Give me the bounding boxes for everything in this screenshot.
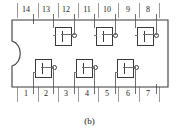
pin-separator-tick xyxy=(17,87,18,102)
gate-body xyxy=(35,59,52,78)
gate-label-one xyxy=(103,31,104,42)
gate-body xyxy=(137,27,154,46)
pin-label-6: 6 xyxy=(121,90,135,98)
pin-label-8: 8 xyxy=(141,6,155,14)
pin-separator-tick xyxy=(139,87,140,102)
gate-bottom-2-output-wire xyxy=(94,67,95,87)
pin-label-11: 11 xyxy=(80,6,94,14)
gate-body xyxy=(76,59,93,78)
pin-label-4: 4 xyxy=(80,90,94,98)
gate-body xyxy=(96,27,113,46)
gate-body xyxy=(117,59,134,78)
gate-bottom-2-input-stub xyxy=(74,72,77,73)
pin-label-3: 3 xyxy=(59,90,73,98)
pin-label-10: 10 xyxy=(100,6,114,14)
gate-label-one xyxy=(144,31,145,42)
gate-label-one xyxy=(124,63,125,74)
pin-separator-tick xyxy=(58,3,59,18)
gate-bottom-2-output-stub xyxy=(82,67,95,68)
gate-top-3-output-wire xyxy=(156,20,157,34)
gate-top-2-input-stub xyxy=(94,35,97,36)
gate-bottom-1-input-wire xyxy=(33,72,34,87)
figure-caption: (b) xyxy=(0,116,179,126)
pin-label-1: 1 xyxy=(19,90,33,98)
pin-label-12: 12 xyxy=(59,6,73,14)
gate-top-1-input-wire xyxy=(53,20,54,28)
gate-bottom-1-input-stub xyxy=(33,72,36,73)
pin-label-2: 2 xyxy=(39,90,53,98)
pin-label-14: 14 xyxy=(19,6,33,14)
pin-label-13: 13 xyxy=(39,6,53,14)
pin-separator-tick xyxy=(139,3,140,18)
pin-label-5: 5 xyxy=(100,90,114,98)
gate-top-2-output-wire xyxy=(115,20,116,34)
gate-label-one xyxy=(62,31,63,42)
gate-top-3-output-stub xyxy=(143,34,157,35)
gate-bottom-1-output-stub xyxy=(41,67,54,68)
figure-canvas: 14 13 12 11 10 9 8 1 2 3 4 5 6 7 xyxy=(0,0,179,134)
pin-separator-tick xyxy=(58,87,59,102)
gate-top-2-input-wire xyxy=(94,20,95,28)
gate-label-one xyxy=(83,63,84,74)
pin-separator-tick xyxy=(159,87,160,102)
gate-bottom-3-input-wire xyxy=(115,72,116,87)
gate-bottom-3-output-stub xyxy=(123,67,136,68)
pin-separator-tick xyxy=(17,3,18,18)
gate-top-1-input-stub xyxy=(53,35,56,36)
gate-top-1-output-wire xyxy=(74,20,75,34)
gate-bottom-3-output-wire xyxy=(135,67,136,87)
gate-body xyxy=(55,27,72,46)
pin-separator-tick xyxy=(98,87,99,102)
pin-separator-tick xyxy=(78,3,79,18)
pin-separator-tick xyxy=(78,87,79,102)
pin-separator-tick xyxy=(159,3,160,18)
pin-separator-tick xyxy=(38,3,39,18)
gate-bottom-1-output-wire xyxy=(53,67,54,87)
gate-bottom-3-input-stub xyxy=(115,72,118,73)
gate-top-2-output-stub xyxy=(102,34,116,35)
pin-separator-tick xyxy=(38,87,39,102)
pin-label-7: 7 xyxy=(141,90,155,98)
gate-bottom-2-input-wire xyxy=(74,72,75,87)
pin-separator-tick xyxy=(118,87,119,102)
pin-separator-tick xyxy=(98,3,99,18)
gate-label-one xyxy=(42,63,43,74)
pin-separator-tick xyxy=(118,3,119,18)
gate-top-1-output-stub xyxy=(61,34,75,35)
pin-label-9: 9 xyxy=(121,6,135,14)
gate-top-3-input-wire xyxy=(135,20,136,28)
gate-top-3-input-stub xyxy=(135,35,138,36)
